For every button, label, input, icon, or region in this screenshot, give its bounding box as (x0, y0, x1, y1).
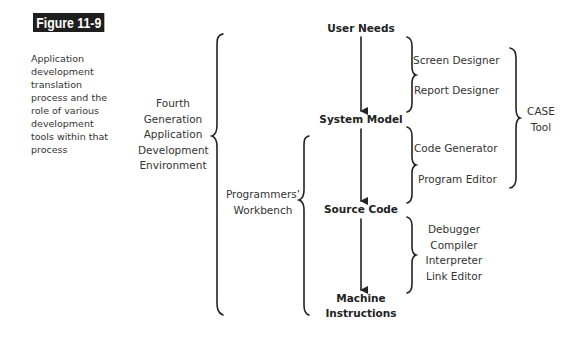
right-brace-translation-tools (407, 217, 416, 293)
left-brace-workbench (299, 136, 309, 315)
right-brace-coding-tools (407, 127, 416, 203)
right-brace-design-tools (407, 37, 416, 112)
diagram-lines (0, 0, 586, 341)
right-brace-case-tool (510, 48, 520, 188)
left-brace-fourth-gen (212, 34, 223, 315)
